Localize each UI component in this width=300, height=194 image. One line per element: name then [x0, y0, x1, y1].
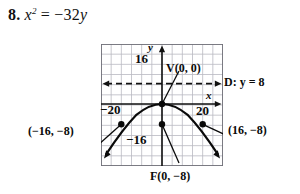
equation-right-variable: y — [80, 6, 87, 23]
tick-label-x-negative: −20 — [100, 103, 120, 116]
equation-exponent: 2 — [32, 6, 37, 16]
equation-operator: = — [41, 6, 50, 23]
leader-focus — [162, 124, 179, 163]
tick-label-x-positive: 20 — [196, 104, 209, 117]
problem-number: 8. — [8, 6, 20, 23]
directrix-annotation: D: y = 8 — [224, 76, 265, 88]
vertex-annotation: V(0, 0) — [166, 62, 201, 74]
problem-statement: 8. x2 = −32y — [8, 6, 87, 24]
equation-right-coefficient: −32 — [54, 6, 80, 23]
focus-annotation: F(0, −8) — [150, 170, 190, 182]
left-point-annotation: (−16, −8) — [28, 125, 74, 137]
right-point-annotation: (16, −8) — [228, 124, 267, 136]
equation-left-variable: x — [25, 6, 32, 23]
tick-label-y-negative: −16 — [126, 133, 146, 146]
y-axis-label: y — [148, 42, 153, 53]
problem-figure: 8. x2 = −32y — [0, 0, 300, 194]
x-axis-label: x — [206, 90, 212, 101]
curve-arrow-right — [213, 150, 220, 158]
tick-label-y-positive: 16 — [135, 52, 148, 65]
leader-vertex — [162, 71, 179, 104]
